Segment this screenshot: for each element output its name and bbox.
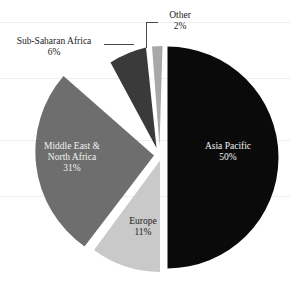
pie-chart: Asia Pacific 50% Europe 11% Middle East … [0,0,290,287]
leader-line-other-elbow [146,22,147,48]
slice-label-name: Asia Pacific [190,141,266,152]
slice-label-name: Sub-Saharan Africa [2,36,106,47]
slice-label-other: Other 2% [152,10,208,32]
slice-label-sub-saharan-africa: Sub-Saharan Africa 6% [2,36,106,58]
slice-label-europe: Europe 11% [112,216,174,238]
slice-label-name-line2: North Africa [22,152,122,163]
slice-label-value: 2% [152,21,208,32]
slice-label-value: 50% [190,152,266,163]
slice-label-name-line1: Middle East & [22,141,122,152]
slice-label-value: 6% [2,47,106,58]
slice-label-value: 31% [22,163,122,174]
slice-label-name: Other [152,10,208,21]
slice-label-middle-east-north-africa: Middle East & North Africa 31% [22,141,122,174]
slice-label-value: 11% [112,227,174,238]
slice-label-name: Europe [112,216,174,227]
slice-label-asia-pacific: Asia Pacific 50% [190,141,266,163]
leader-line-sub-saharan-africa [104,44,134,45]
